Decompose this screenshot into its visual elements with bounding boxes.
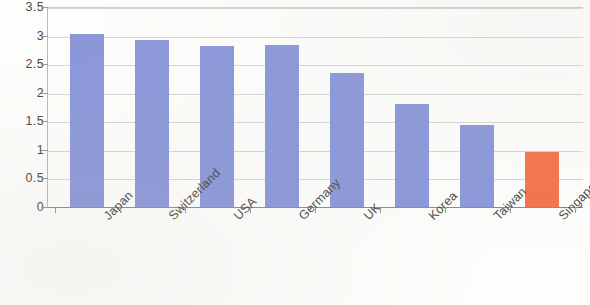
x-axis-tick-mark: [55, 207, 56, 213]
y-axis-tick-mark: [41, 64, 48, 65]
x-axis-tick-mark: [445, 207, 446, 213]
bars-layer: [0, 0, 590, 207]
x-axis-tick-mark: [120, 207, 121, 213]
x-axis-tick-mark: [380, 207, 381, 213]
bar: [265, 45, 299, 207]
y-axis-tick-mark: [41, 178, 48, 179]
y-axis-tick-mark: [41, 150, 48, 151]
x-axis-category-label: Korea: [426, 213, 436, 223]
x-axis-category-label: Singapore: [556, 213, 566, 223]
x-axis-category-label: Taiwan: [491, 213, 501, 223]
x-axis-tick-mark: [315, 207, 316, 213]
bar-chart: 3.532.521.510.50 JapanSwitzerlandUSAGerm…: [0, 0, 590, 305]
bar: [70, 34, 104, 207]
x-axis-tick-mark: [250, 207, 251, 213]
x-axis-category-label: UK: [361, 213, 371, 223]
y-axis-tick-mark: [41, 121, 48, 122]
x-axis-labels: JapanSwitzerlandUSAGermanyUKKoreaTaiwanS…: [0, 213, 590, 305]
y-axis-tick-mark: [41, 93, 48, 94]
bar: [395, 104, 429, 207]
x-axis-category-label: Switzerland: [166, 213, 176, 223]
x-axis-tick-mark: [185, 207, 186, 213]
x-axis-tick-mark: [575, 207, 576, 213]
bar: [135, 40, 169, 207]
y-axis-tick-mark: [41, 36, 48, 37]
bar: [460, 125, 494, 207]
x-axis-category-label: Germany: [296, 213, 306, 223]
x-axis-category-label: Japan: [101, 213, 111, 223]
x-axis-category-label: USA: [231, 213, 241, 223]
bar: [525, 152, 559, 207]
y-axis-tick-mark: [41, 207, 48, 208]
y-axis-tick-mark: [41, 7, 48, 8]
x-axis-tick-mark: [510, 207, 511, 213]
